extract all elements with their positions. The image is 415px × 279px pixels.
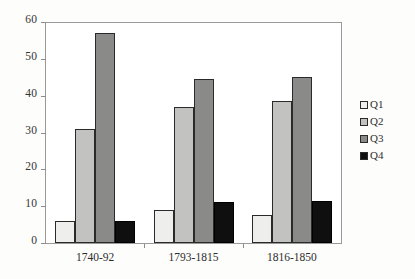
bar-q1-1793-1815 (154, 210, 174, 243)
legend-label: Q3 (370, 133, 383, 144)
x-axis-tick-mark (243, 244, 244, 248)
y-axis-tick-label: 0 (31, 235, 37, 247)
legend-swatch-icon (360, 118, 368, 126)
y-axis-tick-label: 50 (25, 51, 37, 63)
y-axis-tick-label: 60 (25, 14, 37, 26)
y-axis-tick-label: 10 (25, 198, 37, 210)
x-axis-label: 1793-1815 (169, 251, 219, 263)
chart-legend: Q1Q2Q3Q4 (360, 96, 412, 164)
bar-q1-1740-92 (55, 221, 75, 243)
x-axis-label: 1816-1850 (267, 251, 317, 263)
x-axis: 1740-921793-18151816-1850 (46, 248, 341, 268)
y-axis-tick-label: 20 (25, 161, 37, 173)
bar-q3-1740-92 (95, 33, 115, 243)
bar-group (55, 22, 135, 243)
legend-swatch-icon (360, 101, 368, 109)
bar-q2-1816-1850 (272, 101, 292, 243)
bar-group (252, 22, 332, 243)
bar-q4-1740-92 (115, 221, 135, 243)
bar-q2-1740-92 (75, 129, 95, 243)
y-axis-tick-mark (41, 243, 46, 244)
bar-q4-1816-1850 (312, 201, 332, 243)
bars-layer (46, 22, 341, 243)
x-axis-tick-mark (144, 244, 145, 248)
legend-swatch-icon (360, 135, 368, 143)
bar-group (154, 22, 234, 243)
legend-label: Q2 (370, 116, 383, 127)
legend-item-q2[interactable]: Q2 (360, 113, 412, 130)
bar-q2-1793-1815 (174, 107, 194, 243)
bar-chart-figure: 6050403020100 1740-921793-18151816-1850 … (0, 0, 415, 279)
legend-item-q1[interactable]: Q1 (360, 96, 412, 113)
y-axis: 6050403020100 (0, 22, 46, 244)
legend-item-q3[interactable]: Q3 (360, 130, 412, 147)
legend-swatch-icon (360, 152, 368, 160)
legend-label: Q1 (370, 99, 383, 110)
y-axis-tick-label: 30 (25, 125, 37, 137)
bar-q3-1816-1850 (292, 77, 312, 243)
x-axis-label: 1740-92 (76, 251, 114, 263)
bar-q3-1793-1815 (194, 79, 214, 243)
bar-q1-1816-1850 (252, 215, 272, 243)
legend-label: Q4 (370, 150, 383, 161)
legend-item-q4[interactable]: Q4 (360, 147, 412, 164)
bar-q4-1793-1815 (214, 202, 234, 243)
y-axis-tick-label: 40 (25, 88, 37, 100)
